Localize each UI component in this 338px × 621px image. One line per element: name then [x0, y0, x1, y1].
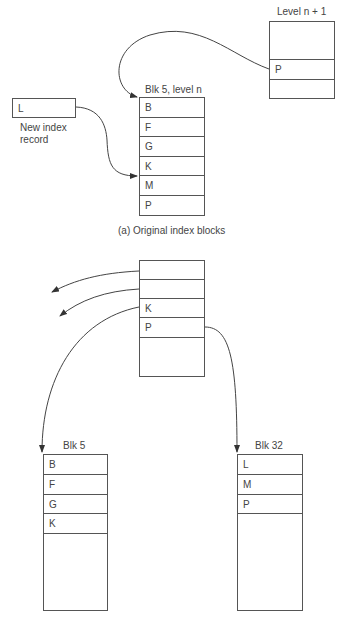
pointer-k-to-blk5-arrow: [42, 307, 139, 452]
parent-row: [140, 338, 204, 376]
parent-row-k: K: [140, 299, 204, 318]
blk5-title: Blk 5: [63, 440, 85, 451]
level-n1-row-empty-bottom: [270, 80, 334, 99]
blk5b-row: K: [44, 514, 107, 534]
level-n1-title: Level n + 1: [277, 6, 326, 17]
parent-row: [140, 280, 204, 299]
blk32-row: P: [238, 495, 302, 514]
blk5b-row: [44, 534, 107, 610]
blk5-row: K: [140, 157, 204, 176]
level-n1-row-empty: [270, 22, 334, 60]
new-index-record-caption-1: New index: [20, 122, 67, 133]
blk5-row: B: [140, 98, 204, 118]
blk5-row: M: [140, 176, 204, 196]
new-record-value: L: [13, 99, 75, 117]
blk32-row: L: [238, 455, 302, 475]
insert-l-arrow: [76, 107, 137, 176]
blk5-row: G: [140, 137, 204, 157]
blk5-row: F: [140, 118, 204, 137]
blk5-level-n-block: B F G K M P: [139, 97, 205, 216]
blk32-block: L M P: [237, 454, 303, 611]
parent-block: K P: [139, 260, 205, 377]
level-n1-block: P: [269, 21, 335, 99]
blk5-level-n-title: Blk 5, level n: [145, 84, 202, 95]
parent-row-p: P: [140, 318, 204, 338]
pointer-p-to-blk32-arrow: [205, 327, 237, 452]
caption-a: (a) Original index blocks: [118, 225, 225, 236]
parent-row2-arrow: [60, 289, 139, 316]
level-n1-row-p: P: [270, 60, 334, 80]
blk5b-row: F: [44, 475, 107, 495]
parent-row: [140, 261, 204, 280]
blk32-row: [238, 514, 302, 610]
blk5b-row: G: [44, 495, 107, 514]
blk5b-row: B: [44, 455, 107, 475]
blk5-block: B F G K: [43, 454, 108, 611]
new-index-record-box: L: [12, 98, 76, 118]
blk32-row: M: [238, 475, 302, 495]
new-index-record-caption-2: record: [20, 134, 48, 145]
parent-row1-arrow: [52, 271, 139, 292]
blk32-title: Blk 32: [255, 440, 283, 451]
blk5-row: P: [140, 196, 204, 215]
